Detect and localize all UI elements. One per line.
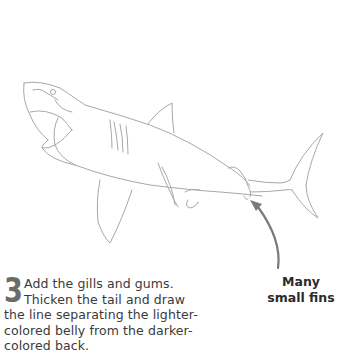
annotation-line-1: Many — [256, 274, 346, 290]
fins-annotation: Many small fins — [256, 274, 346, 305]
step-number: 3 — [4, 278, 19, 306]
step-instructions: 3 Add the gills and gums. Thicken the ta… — [4, 276, 209, 354]
annotation-line-2: small fins — [256, 290, 346, 306]
step-text: Add the gills and gums. Thicken the tail… — [4, 276, 198, 353]
